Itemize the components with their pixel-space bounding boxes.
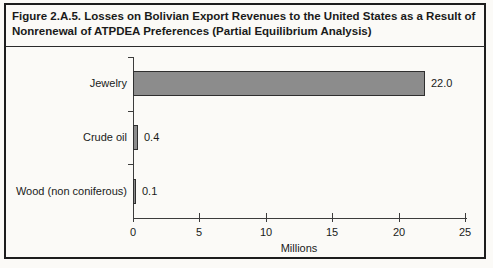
category-label: Crude oil	[0, 131, 127, 144]
x-tick-label: 15	[317, 226, 347, 239]
y-axis-tick	[128, 111, 133, 112]
bar-1	[133, 71, 425, 96]
x-tick-label: 0	[118, 226, 148, 239]
x-axis-tick	[266, 213, 267, 222]
figure: Figure 2.A.5. Losses on Bolivian Export …	[0, 0, 493, 268]
bar-2	[133, 125, 138, 150]
value-label: 22.0	[431, 77, 452, 90]
y-axis-tick	[128, 57, 133, 58]
x-axis-label: Millions	[133, 242, 465, 254]
x-axis-tick	[332, 213, 333, 222]
bar-3	[133, 179, 136, 204]
category-label: Wood (non coniferous)	[0, 185, 127, 198]
x-axis-tick	[399, 213, 400, 222]
x-axis-line	[133, 218, 467, 219]
category-label: Jewelry	[0, 77, 127, 90]
x-axis-tick	[199, 213, 200, 222]
x-axis-tick	[465, 213, 466, 222]
x-tick-label: 25	[450, 226, 480, 239]
x-axis-tick	[133, 213, 134, 222]
x-tick-label: 20	[384, 226, 414, 239]
bar-chart: Millions 0510152025Jewelry22.0Crude oil0…	[0, 0, 493, 268]
value-label: 0.1	[142, 185, 157, 198]
x-tick-label: 10	[251, 226, 281, 239]
value-label: 0.4	[144, 131, 159, 144]
x-tick-label: 5	[184, 226, 214, 239]
y-axis-tick	[128, 164, 133, 165]
